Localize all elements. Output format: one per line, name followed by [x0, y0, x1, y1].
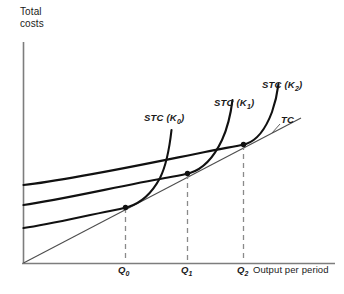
y-axis-label: Total costs — [20, 6, 44, 30]
curve-label-stc-k0-close: ) — [181, 112, 184, 123]
tangency-point-q2 — [241, 142, 246, 147]
curve-label-stc-k1: STC (K1) — [214, 97, 254, 111]
curve-label-stc-k0: STC (K0) — [144, 112, 184, 126]
plot-area — [0, 0, 344, 294]
x-tick-label-q0: Q0 — [118, 264, 129, 278]
curve-label-stc-k0-text: STC (K — [144, 112, 177, 123]
curve-label-stc-k1-close: ) — [251, 97, 254, 108]
tangency-point-q1 — [185, 171, 190, 176]
y-axis-label-line1: Total — [20, 6, 44, 18]
y-axis-label-line2: costs — [20, 18, 44, 30]
curve-label-stc-k1-text: STC (K — [214, 97, 247, 108]
x-tick-label-q2: Q2 — [237, 264, 248, 278]
curve-label-stc-k2: STC (K2) — [262, 79, 302, 93]
stc-k0-curve — [24, 130, 172, 228]
x-tick-label-q1: Q1 — [181, 264, 192, 278]
cost-curves-figure: Total costs Output per period STC (K0) S… — [0, 0, 344, 294]
curve-label-stc-k2-text: STC (K — [262, 79, 295, 90]
tangency-point-q0 — [123, 205, 128, 210]
curve-label-tc: TC — [281, 114, 294, 125]
x-axis-label: Output per period — [253, 264, 329, 275]
x-tick-label-q2-subscript: 2 — [244, 270, 248, 277]
x-tick-label-q1-subscript: 1 — [188, 270, 192, 277]
curve-label-stc-k2-close: ) — [299, 79, 302, 90]
tc-curve — [24, 118, 302, 263]
x-tick-label-q0-subscript: 0 — [125, 270, 129, 277]
